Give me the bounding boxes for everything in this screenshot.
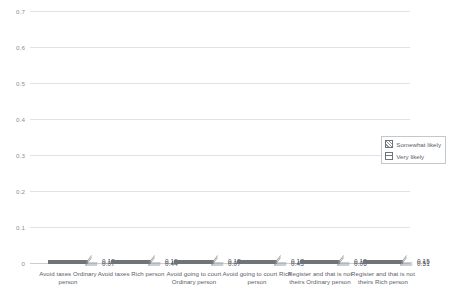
bar-segment-very-1[interactable]: 0.07 xyxy=(48,262,88,264)
bar-segment-very-4[interactable]: 0.43 xyxy=(237,262,277,264)
bar-group-5[interactable]: 0.12 0.06 Register and that is not their… xyxy=(300,260,340,264)
bar-segment-very-6[interactable]: 0.51 xyxy=(363,262,403,264)
legend-label-very-likely: Very likely xyxy=(396,153,424,160)
legend-item-very-likely[interactable]: Very likely xyxy=(385,152,441,160)
xtick-label-6: Register and that is not theirs Rich per… xyxy=(344,270,422,286)
leader-line-icon xyxy=(400,258,418,266)
stacked-bar-chart: 0.7 0.6 0.5 0.4 0.3 0.2 0.1 0 0.12 xyxy=(0,0,450,295)
gridline-0.5: 0.5 xyxy=(30,83,410,84)
bar-group-1[interactable]: 0.12 0.07 Avoid taxes Ordinary person xyxy=(48,260,88,264)
leader-line-icon xyxy=(337,258,355,266)
leader-line-icon xyxy=(85,258,103,266)
gridline-0.1: 0.1 xyxy=(30,227,410,228)
ytick-label-0: 0 xyxy=(21,260,25,267)
legend-item-somewhat-likely[interactable]: Somewhat likely xyxy=(385,140,441,148)
legend-swatch-very-likely-icon xyxy=(385,152,393,160)
data-label-somewhat-6: 0.15 xyxy=(402,256,430,267)
leader-line-icon xyxy=(148,258,166,266)
legend-label-somewhat-likely: Somewhat likely xyxy=(396,141,441,148)
gridline-0.6: 0.6 xyxy=(30,47,410,48)
gridline-0.2: 0.2 xyxy=(30,191,410,192)
bar-group-4[interactable]: 0.17 0.43 Avoid going to court Rich pers… xyxy=(237,260,277,264)
plot-area: 0.7 0.6 0.5 0.4 0.3 0.2 0.1 0 0.12 xyxy=(30,12,410,264)
bar-segment-very-2[interactable]: 0.44 xyxy=(111,262,151,264)
bar-segment-very-5[interactable]: 0.06 xyxy=(300,262,340,264)
bar-segment-very-3[interactable]: 0.07 xyxy=(174,262,214,264)
ytick-label-0.7: 0.7 xyxy=(16,8,25,15)
ytick-label-0.2: 0.2 xyxy=(16,188,25,195)
ytick-label-0.6: 0.6 xyxy=(16,44,25,51)
ytick-label-0.4: 0.4 xyxy=(16,116,25,123)
leader-line-icon xyxy=(274,258,292,266)
bar-group-2[interactable]: 0.19 0.44 Avoid taxes Rich person xyxy=(111,260,151,264)
leader-line-icon xyxy=(211,258,229,266)
bar-group-3[interactable]: 0.12 0.07 Avoid going to court Ordinary … xyxy=(174,260,214,264)
gridline-0.7: 0.7 xyxy=(30,11,410,12)
bar-group-6[interactable]: 0.15 0.51 Register and that is not their… xyxy=(363,260,403,264)
gridline-0.3: 0.3 xyxy=(30,155,410,156)
chart-legend: Somewhat likely Very likely xyxy=(381,136,446,164)
ytick-label-0.5: 0.5 xyxy=(16,80,25,87)
ytick-label-0.3: 0.3 xyxy=(16,152,25,159)
gridline-0.4: 0.4 xyxy=(30,119,410,120)
ytick-label-0.1: 0.1 xyxy=(16,224,25,231)
legend-swatch-somewhat-likely-icon xyxy=(385,140,393,148)
